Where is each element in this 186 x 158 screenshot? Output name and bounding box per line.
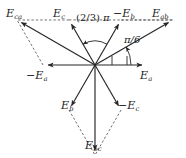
label-Eb: Eb bbox=[61, 100, 73, 111]
label-angle-two-thirds-pi: (2/3) π bbox=[76, 13, 110, 23]
label-angle-pi-over-six: π/6 bbox=[124, 35, 140, 45]
phasor-Ec bbox=[72, 24, 96, 65]
label-Ec: Ec bbox=[53, 8, 65, 19]
label-Eca: Eca bbox=[6, 8, 22, 19]
label-Eab: Eab bbox=[152, 8, 168, 19]
label-negEc: −Ec bbox=[118, 100, 139, 111]
dash-negEa-to-Eca bbox=[17, 20, 43, 65]
label-Ea: Ea bbox=[140, 70, 152, 81]
phasor-diagram-figure: Ea−EbEc−EaEb−EcEabEbcEca(2/3) ππ/6 bbox=[0, 0, 186, 158]
resultant-phasors-group bbox=[21, 23, 168, 151]
label-Ebc: Ebc bbox=[85, 140, 101, 151]
phasor-negEc bbox=[95, 65, 119, 106]
angle-arc-two-thirds-pi bbox=[83, 41, 107, 44]
label-negEb: −Eb bbox=[113, 8, 135, 19]
axis-tick-marks-group bbox=[112, 56, 127, 65]
label-negEa: −Ea bbox=[26, 70, 47, 81]
phasor-negEb bbox=[95, 24, 119, 65]
phasor-Eb bbox=[72, 65, 96, 106]
